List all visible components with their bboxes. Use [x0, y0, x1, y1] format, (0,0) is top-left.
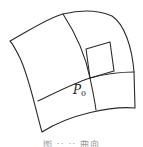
tangent-plane-rectangle [86, 42, 114, 78]
point-label-p0: P0 [73, 84, 86, 98]
surface-drawing [0, 0, 143, 147]
figure-caption: 图 ·· ·· 曲面 [0, 140, 143, 147]
point-label-base: P [73, 83, 81, 97]
surface-diagram: P0 图 ·· ·· 曲面 [0, 0, 143, 147]
point-label-subscript: 0 [81, 89, 86, 98]
